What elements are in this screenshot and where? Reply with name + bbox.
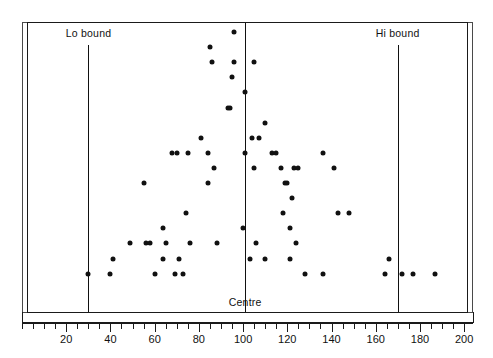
data-point	[256, 135, 261, 140]
x-tick-minor	[210, 324, 211, 329]
plot-area: Lo boundCentreHi bound	[28, 23, 467, 312]
data-point	[163, 241, 168, 246]
data-point	[249, 135, 254, 140]
x-tick-major	[243, 324, 244, 332]
x-tick-minor	[55, 324, 56, 329]
centre-label: Centre	[229, 296, 262, 308]
data-point	[232, 30, 237, 35]
x-tick-minor	[188, 324, 189, 329]
x-axis-line	[22, 322, 473, 324]
data-point	[174, 150, 179, 155]
data-point	[287, 226, 292, 231]
data-point	[188, 241, 193, 246]
data-point	[108, 271, 113, 276]
data-point	[336, 211, 341, 216]
data-point	[232, 60, 237, 65]
data-point	[252, 60, 257, 65]
data-point	[176, 256, 181, 261]
data-point	[289, 196, 294, 201]
data-point	[172, 271, 177, 276]
data-point	[161, 226, 166, 231]
x-tick-label: 120	[278, 333, 296, 345]
x-tick-minor	[22, 324, 23, 329]
x-tick-minor	[221, 324, 222, 329]
data-point	[141, 181, 146, 186]
data-point	[294, 241, 299, 246]
data-point	[227, 105, 232, 110]
x-tick-minor	[387, 324, 388, 329]
x-axis-left-cap	[22, 312, 23, 323]
x-tick-label: 160	[367, 333, 385, 345]
x-tick-minor	[398, 324, 399, 329]
x-tick-minor	[88, 324, 89, 329]
data-point	[212, 165, 217, 170]
data-point	[210, 60, 215, 65]
lo-bound-label: Lo bound	[66, 27, 111, 39]
x-tick-major	[376, 324, 377, 332]
x-tick-major	[199, 324, 200, 332]
x-tick-label: 100	[234, 333, 252, 345]
x-tick-minor	[431, 324, 432, 329]
x-tick-minor	[177, 324, 178, 329]
data-point	[205, 150, 210, 155]
data-point	[386, 256, 391, 261]
x-tick-major	[287, 324, 288, 332]
x-tick-minor	[44, 324, 45, 329]
data-point	[199, 135, 204, 140]
data-point	[331, 165, 336, 170]
x-tick-major	[332, 324, 333, 332]
data-point	[263, 256, 268, 261]
data-point	[183, 211, 188, 216]
data-point	[433, 271, 438, 276]
data-point	[148, 241, 153, 246]
x-tick-minor	[453, 324, 454, 329]
data-point	[302, 271, 307, 276]
data-point	[230, 75, 235, 80]
x-tick-minor	[298, 324, 299, 329]
data-point	[285, 181, 290, 186]
hi-bound-label: Hi bound	[376, 27, 420, 39]
data-point	[320, 271, 325, 276]
x-tick-minor	[365, 324, 366, 329]
x-tick-minor	[309, 324, 310, 329]
x-tick-minor	[254, 324, 255, 329]
x-tick-major	[155, 324, 156, 332]
x-tick-major	[464, 324, 465, 332]
data-point	[411, 271, 416, 276]
x-tick-major	[66, 324, 67, 332]
data-point	[320, 150, 325, 155]
x-tick-minor	[133, 324, 134, 329]
x-tick-label: 180	[411, 333, 429, 345]
x-tick-minor	[276, 324, 277, 329]
x-tick-label: 200	[455, 333, 473, 345]
data-point	[161, 256, 166, 261]
data-point	[207, 45, 212, 50]
data-point	[86, 271, 91, 276]
data-point	[214, 241, 219, 246]
x-tick-minor	[166, 324, 167, 329]
data-point	[247, 256, 252, 261]
hi-bound-line	[398, 45, 399, 312]
x-tick-minor	[409, 324, 410, 329]
data-point	[243, 90, 248, 95]
data-point	[347, 211, 352, 216]
x-tick-minor	[33, 324, 34, 329]
x-tick-label: 80	[193, 333, 205, 345]
x-tick-minor	[265, 324, 266, 329]
x-tick-minor	[354, 324, 355, 329]
data-point	[205, 181, 210, 186]
x-tick-label: 140	[322, 333, 340, 345]
data-point	[241, 226, 246, 231]
centre-line	[245, 23, 246, 312]
data-point	[110, 256, 115, 261]
x-tick-minor	[442, 324, 443, 329]
x-tick-major	[420, 324, 421, 332]
data-point	[274, 150, 279, 155]
x-tick-label: 20	[60, 333, 72, 345]
x-tick-label: 40	[104, 333, 116, 345]
x-tick-minor	[232, 324, 233, 329]
data-point	[185, 150, 190, 155]
x-tick-minor	[144, 324, 145, 329]
x-tick-label: 60	[149, 333, 161, 345]
data-point	[263, 120, 268, 125]
